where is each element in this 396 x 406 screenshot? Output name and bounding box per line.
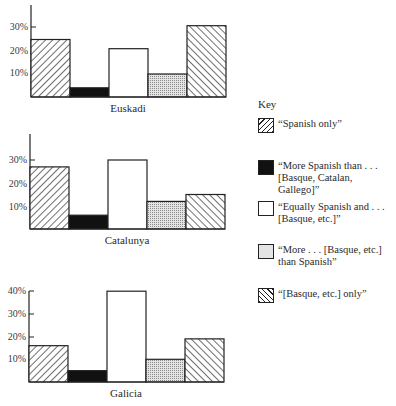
- key-label: “Spanish only”: [278, 118, 394, 130]
- key-title: Key: [258, 98, 276, 110]
- category-label: Euskadi: [110, 102, 145, 114]
- bar: [147, 201, 186, 229]
- bar: [107, 291, 146, 382]
- bar: [30, 167, 69, 229]
- hatch-back-swatch-icon: [258, 288, 274, 303]
- key-label: “[Basque, etc.] only”: [278, 288, 394, 300]
- category-label: Catalunya: [105, 234, 150, 246]
- key-label: “Equally Spanish and . . . [Basque, etc.…: [278, 201, 394, 225]
- tick-label: 30%: [10, 21, 28, 32]
- tick-label: 40%: [8, 285, 26, 296]
- bar: [68, 371, 107, 382]
- key-item-more-spanish: “More Spanish than . . . [Basque, Catala…: [258, 160, 394, 196]
- tick-label: 10%: [8, 353, 26, 364]
- tick-label: 10%: [9, 201, 27, 212]
- chart-catalunya: 30% 20% 10% Catalunya: [9, 134, 225, 246]
- tick-label: 20%: [9, 178, 27, 189]
- bar: [148, 74, 187, 97]
- bar: [108, 160, 147, 229]
- chart-euskadi: 30% 20% 10% Euskadi: [10, 5, 226, 114]
- key-label: “More . . . [Basque, etc.] than Spanish”: [278, 244, 394, 268]
- tick-label: 20%: [8, 331, 26, 342]
- bar: [185, 339, 224, 382]
- bar: [69, 215, 108, 229]
- solid-black-swatch-icon: [258, 160, 274, 175]
- white-swatch-icon: [258, 201, 274, 216]
- bar: [146, 359, 185, 382]
- bar: [186, 195, 225, 230]
- chart-galicia: 40% 30% 20% 10% Galicia: [8, 285, 224, 399]
- bar: [29, 346, 68, 382]
- key-item-spanish-only: “Spanish only”: [258, 118, 394, 133]
- tick-label: 10%: [10, 67, 28, 78]
- tick-label: 30%: [8, 308, 26, 319]
- key-item-equally: “Equally Spanish and . . . [Basque, etc.…: [258, 201, 394, 225]
- key-label: “More Spanish than . . . [Basque, Catala…: [278, 160, 394, 196]
- tick-label: 30%: [9, 154, 27, 165]
- tick-label: 20%: [10, 45, 28, 56]
- bar: [70, 88, 109, 97]
- bar: [31, 40, 70, 98]
- bar: [109, 49, 148, 97]
- key-item-more-regional: “More . . . [Basque, etc.] than Spanish”: [258, 244, 394, 268]
- category-label: Galicia: [110, 387, 142, 399]
- bar: [187, 26, 226, 97]
- key-item-regional-only: “[Basque, etc.] only”: [258, 288, 394, 303]
- dotted-swatch-icon: [258, 244, 274, 259]
- hatch-forward-swatch-icon: [258, 118, 274, 133]
